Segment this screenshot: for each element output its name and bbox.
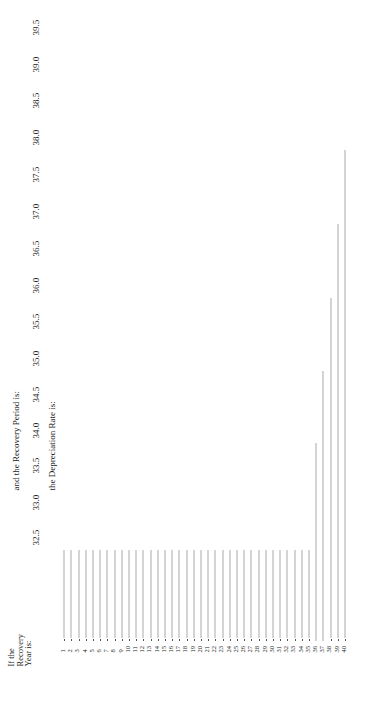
rate-cell (80, 83, 87, 113)
rate-cell (202, 448, 209, 478)
rate-cell (80, 520, 87, 550)
rate-cell (130, 157, 137, 187)
rate-cell (65, 377, 72, 407)
rate-cell (180, 83, 187, 113)
column-header: 33.5 (30, 457, 40, 473)
rate-cell (58, 47, 65, 77)
rate-cell (87, 157, 94, 187)
rate-cell (137, 157, 144, 187)
rate-cell (238, 120, 245, 150)
rate-cell (252, 268, 259, 298)
rate-cell (302, 231, 309, 261)
year-label: 16 (166, 645, 173, 652)
rate-cell (173, 268, 180, 298)
rate-cell (94, 10, 101, 40)
rate-cell (310, 83, 317, 113)
rate-cell (202, 47, 209, 77)
rate-cell (58, 413, 65, 443)
rate-cell (58, 83, 65, 113)
rate-cell (58, 157, 65, 187)
rate-cell (310, 194, 317, 224)
rate-cell (80, 47, 87, 77)
rate-cell (166, 231, 173, 261)
rate-cell (281, 448, 288, 478)
rate-cell (295, 194, 302, 224)
rate-cell (137, 341, 144, 371)
rate-cell (65, 304, 72, 334)
rate-cell (209, 47, 216, 77)
rate-cell (101, 448, 108, 478)
depreciation-table: If the Recovery Year is: and the Recover… (0, 0, 375, 712)
rate-cell (231, 377, 238, 407)
rate-cell (159, 10, 166, 40)
rate-cell (173, 341, 180, 371)
rate-cell (209, 231, 216, 261)
rate-cell (252, 10, 259, 40)
rate-cell (72, 194, 79, 224)
rate-cell (137, 448, 144, 478)
rate-cell (151, 520, 158, 550)
rate-cell (238, 157, 245, 187)
rate-cell (72, 47, 79, 77)
rate-column (58, 10, 346, 40)
rate-cell (209, 304, 216, 334)
rate-cell (288, 47, 295, 77)
rate-cell (238, 520, 245, 550)
column-header: 36.5 (30, 240, 40, 256)
rate-cell (317, 194, 324, 224)
rate-cell (216, 341, 223, 371)
rate-cell (94, 341, 101, 371)
rate-cell (338, 120, 345, 150)
rate-cell (266, 520, 273, 550)
rate-cell (108, 304, 115, 334)
rate-cell (159, 520, 166, 550)
rate-cell (87, 341, 94, 371)
rate-cell (166, 304, 173, 334)
rate-cell (94, 47, 101, 77)
rate-cell (65, 120, 72, 150)
rate-cell (101, 47, 108, 77)
rate-cell (252, 341, 259, 371)
rate-cell (288, 304, 295, 334)
rate-cell (195, 520, 202, 550)
rate-cell (252, 194, 259, 224)
rate-cell (187, 268, 194, 298)
rate-cell (144, 47, 151, 77)
rate-cell (187, 47, 194, 77)
rate-cell (238, 231, 245, 261)
rate-cell (202, 83, 209, 113)
rate-cell (137, 304, 144, 334)
rate-cell (58, 120, 65, 150)
rate-cell (108, 83, 115, 113)
rate-cell (223, 377, 230, 407)
rate-cell (310, 341, 317, 371)
rate-cell (187, 413, 194, 443)
rate-cell (144, 520, 151, 550)
rate-cell (245, 485, 252, 515)
rate-cell (223, 448, 230, 478)
rate-cell (231, 485, 238, 515)
rate-cell (310, 10, 317, 40)
rate-cell (252, 47, 259, 77)
rate-column (58, 83, 346, 113)
rate-cell (288, 120, 295, 150)
rate-cell (108, 47, 115, 77)
rate-cell (274, 485, 281, 515)
rate-cell (65, 268, 72, 298)
row-header-line: If the (6, 633, 15, 666)
rate-cell (216, 157, 223, 187)
rate-cell (108, 10, 115, 40)
rate-cell (310, 304, 317, 334)
rate-cell (223, 485, 230, 515)
rate-cell (274, 448, 281, 478)
rate-column (58, 120, 346, 150)
rate-cell (180, 485, 187, 515)
rate-column (58, 47, 346, 77)
rate-cell (166, 485, 173, 515)
rate-cell (281, 341, 288, 371)
rate-cell (80, 231, 87, 261)
rate-cell (195, 83, 202, 113)
rate-cell (123, 413, 130, 443)
year-label: 32 (281, 645, 288, 652)
rate-column (58, 485, 310, 515)
